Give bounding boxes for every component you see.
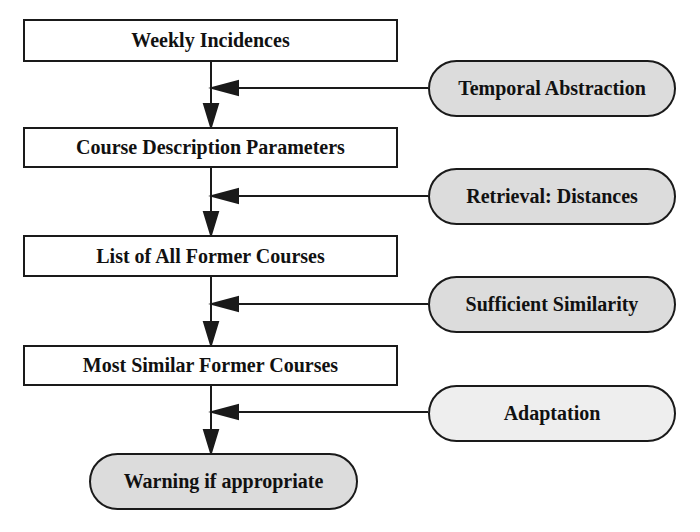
arrowhead-left-3: [212, 297, 238, 311]
step-course-description-parameters: Course Description Parameters: [23, 127, 398, 168]
arrowhead-down-2: [204, 212, 218, 235]
process-label: Adaptation: [504, 402, 601, 425]
process-label: Sufficient Similarity: [466, 293, 639, 316]
process-adaptation: Adaptation: [428, 385, 676, 442]
process-retrieval-distances: Retrieval: Distances: [428, 168, 676, 225]
output-label: Warning if appropriate: [124, 470, 324, 493]
step-label: List of All Former Courses: [96, 245, 325, 268]
arrowhead-down-3: [204, 322, 218, 345]
arrowhead-left-2: [212, 189, 238, 203]
process-temporal-abstraction: Temporal Abstraction: [428, 60, 676, 117]
step-weekly-incidences: Weekly Incidences: [23, 19, 398, 62]
step-label: Most Similar Former Courses: [83, 354, 338, 377]
process-label: Retrieval: Distances: [466, 185, 638, 208]
step-list-of-all-former-courses: List of All Former Courses: [23, 235, 398, 277]
output-warning: Warning if appropriate: [89, 453, 358, 510]
process-label: Temporal Abstraction: [458, 77, 646, 100]
arrowhead-down-1: [204, 104, 218, 127]
arrowhead-left-4: [212, 405, 238, 419]
step-most-similar-former-courses: Most Similar Former Courses: [23, 345, 398, 386]
flowchart-canvas: Weekly Incidences Course Description Par…: [0, 0, 700, 532]
arrowhead-left-1: [212, 81, 238, 95]
step-label: Course Description Parameters: [76, 136, 345, 159]
process-sufficient-similarity: Sufficient Similarity: [428, 276, 676, 333]
step-label: Weekly Incidences: [131, 29, 289, 52]
arrowhead-down-4: [204, 430, 218, 453]
